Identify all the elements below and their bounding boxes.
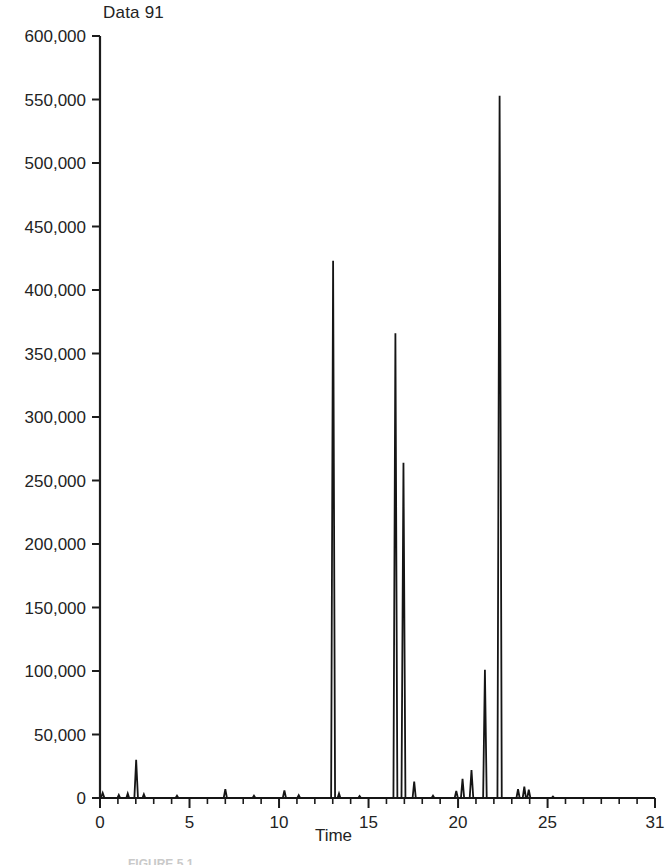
- y-tick-label: 200,000: [25, 535, 86, 554]
- y-tick-label: 550,000: [25, 91, 86, 110]
- y-tick-label: 600,000: [25, 27, 86, 46]
- y-tick-label: 0: [77, 789, 86, 808]
- y-tick-label: 300,000: [25, 408, 86, 427]
- y-tick-label: 350,000: [25, 345, 86, 364]
- x-axis-title: Time: [0, 826, 667, 846]
- data-series-trace: [100, 96, 655, 798]
- y-tick-label: 500,000: [25, 154, 86, 173]
- y-tick-label: 50,000: [34, 726, 86, 745]
- y-tick-label: 150,000: [25, 599, 86, 618]
- y-tick-label: 450,000: [25, 218, 86, 237]
- y-tick-label: 250,000: [25, 472, 86, 491]
- chart-plot-area: 050,000100,000150,000200,000250,000300,0…: [0, 0, 667, 865]
- y-tick-label: 400,000: [25, 281, 86, 300]
- figure-container: Data 91 050,000100,000150,000200,000250,…: [0, 0, 667, 865]
- figure-caption: FIGURE 5.1: [128, 858, 193, 865]
- axis-spines: [100, 36, 655, 798]
- y-tick-label: 100,000: [25, 662, 86, 681]
